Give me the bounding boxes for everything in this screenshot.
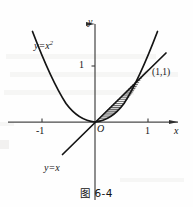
curve-label-line: y=x [44,163,60,173]
plot-canvas [0,0,193,207]
x-axis-label: x [174,126,178,136]
curve-label-parabola: y=x2 [34,40,53,51]
x-tick-label-1: 1 [145,126,150,136]
y-axis-label: y [88,17,92,27]
x-tick-label-neg1: -1 [36,126,44,136]
origin-label: O [97,124,104,134]
y-tick-label-1: 1 [79,60,84,70]
figure-caption: 图 6-4 [0,185,193,200]
figure-container: y=x2 y=x y x O (1,1) 1 1 -1 图 6-4 [0,0,193,207]
exponent: 2 [50,39,53,46]
point-label-intersection: (1,1) [152,68,170,78]
